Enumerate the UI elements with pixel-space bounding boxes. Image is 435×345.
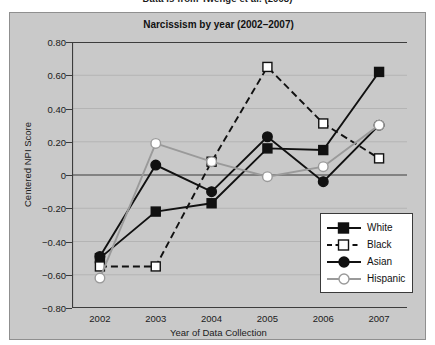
x-tick-label: 2002 — [70, 313, 130, 324]
data-point-marker — [207, 187, 217, 197]
data-point-marker — [319, 119, 328, 128]
legend-label: Asian — [367, 256, 392, 267]
data-point-marker — [374, 120, 384, 130]
x-tick-label: 2004 — [182, 313, 242, 324]
chart-title: Narcissism by year (2002–2007) — [10, 19, 427, 30]
y-tick-label: −0.40 — [26, 236, 66, 247]
figure-caption: Data is from Twenge et al. (2008) — [0, 0, 435, 4]
legend-key-asian-icon — [326, 255, 362, 269]
y-tick-label: −0.80 — [26, 303, 66, 314]
y-tick-label: 0 — [26, 170, 66, 181]
data-point-marker — [95, 252, 105, 262]
data-point-marker — [263, 132, 273, 142]
legend-key-white-icon — [326, 221, 362, 235]
x-tick-label: 2006 — [293, 313, 353, 324]
x-tick-label: 2003 — [126, 313, 186, 324]
data-point-marker — [318, 177, 328, 187]
data-point-marker — [263, 172, 273, 182]
data-point-marker — [151, 262, 160, 271]
legend-item-white[interactable]: White — [326, 219, 405, 236]
chart-frame: Narcissism by year (2002–2007) Centered … — [9, 12, 426, 340]
y-tick-label: −0.60 — [26, 269, 66, 280]
data-point-marker — [319, 146, 328, 155]
data-point-marker — [207, 157, 217, 167]
y-tick-label: 0.20 — [26, 136, 66, 147]
data-point-marker — [263, 62, 272, 71]
data-point-marker — [151, 139, 161, 149]
legend-label: White — [367, 222, 393, 233]
x-tick-label: 2007 — [349, 313, 409, 324]
data-point-marker — [375, 154, 384, 163]
legend-key-hispanic-icon — [326, 272, 362, 286]
y-tick-mark — [66, 308, 72, 309]
legend-label: Black — [367, 239, 391, 250]
data-point-marker — [318, 162, 328, 172]
x-axis-title: Year of Data Collection — [10, 327, 427, 338]
data-point-marker — [375, 67, 384, 76]
data-point-marker — [207, 199, 216, 208]
y-axis-tick-labels: 0.800.600.400.200−0.20−0.40−0.60−0.80 — [19, 42, 66, 308]
legend-item-hispanic[interactable]: Hispanic — [326, 270, 405, 287]
data-point-marker — [95, 273, 105, 283]
legend-item-black[interactable]: Black — [326, 236, 405, 253]
y-tick-label: 0.40 — [26, 103, 66, 114]
legend-item-asian[interactable]: Asian — [326, 253, 405, 270]
x-tick-label: 2005 — [237, 313, 297, 324]
legend-label: Hispanic — [367, 273, 405, 284]
legend-key-black-icon — [326, 238, 362, 252]
chart-legend: WhiteBlackAsianHispanic — [320, 213, 413, 293]
data-point-marker — [263, 144, 272, 153]
y-tick-label: 0.80 — [26, 37, 66, 48]
y-tick-label: 0.60 — [26, 70, 66, 81]
y-tick-label: −0.20 — [26, 203, 66, 214]
data-point-marker — [151, 160, 161, 170]
data-point-marker — [151, 207, 160, 216]
